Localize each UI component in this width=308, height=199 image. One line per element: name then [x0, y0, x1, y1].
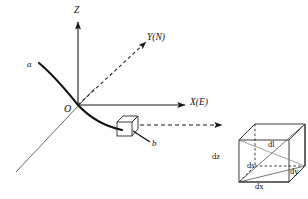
- z-axis-label: Z: [74, 6, 79, 16]
- trajectory-curve: [39, 63, 122, 130]
- origin-label: O: [64, 104, 71, 114]
- cube-label-ds: ds: [247, 161, 255, 170]
- diagram-canvas: Z Y(N) X(E) O a b dz ds dl dx dy: [0, 0, 308, 199]
- cube-label-dl: dl: [268, 140, 275, 149]
- sensor-box-icon: [117, 116, 138, 136]
- cube-label-dz: dz: [212, 152, 220, 161]
- trajectory-end-label: b: [152, 139, 157, 148]
- cube-label-dx: dx: [255, 182, 264, 191]
- diagram-vector-layer: [0, 0, 308, 199]
- cube-label-dy: dy: [290, 167, 299, 176]
- b-leader-line: [133, 131, 150, 142]
- x-axis-label: X(E): [190, 98, 208, 108]
- y-axis-label: Y(N): [147, 33, 165, 43]
- trajectory-start-label: a: [27, 60, 32, 69]
- auxiliary-line: [16, 88, 95, 172]
